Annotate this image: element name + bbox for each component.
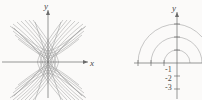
axes bbox=[2, 10, 88, 98]
y-tick-label-neg3: -3 bbox=[165, 83, 172, 92]
concentric-arcs bbox=[138, 24, 202, 63]
y-tick-label-neg2: -2 bbox=[165, 74, 172, 83]
x-axis-label: x bbox=[89, 58, 94, 68]
x-axis-arrow-icon bbox=[83, 60, 88, 64]
y-axis-label: y bbox=[43, 1, 48, 11]
hyperbola-family-plot: x y bbox=[0, 0, 101, 100]
y-tick-label-neg1: -1 bbox=[165, 65, 172, 74]
concentric-arcs-plot: y -1 -2 -3 bbox=[101, 0, 202, 100]
y-axis-label: y bbox=[171, 3, 176, 13]
figure-container: x y bbox=[0, 0, 202, 100]
hyperbola-svg: x y bbox=[0, 0, 101, 100]
arcs-svg: y -1 -2 -3 bbox=[101, 0, 202, 100]
